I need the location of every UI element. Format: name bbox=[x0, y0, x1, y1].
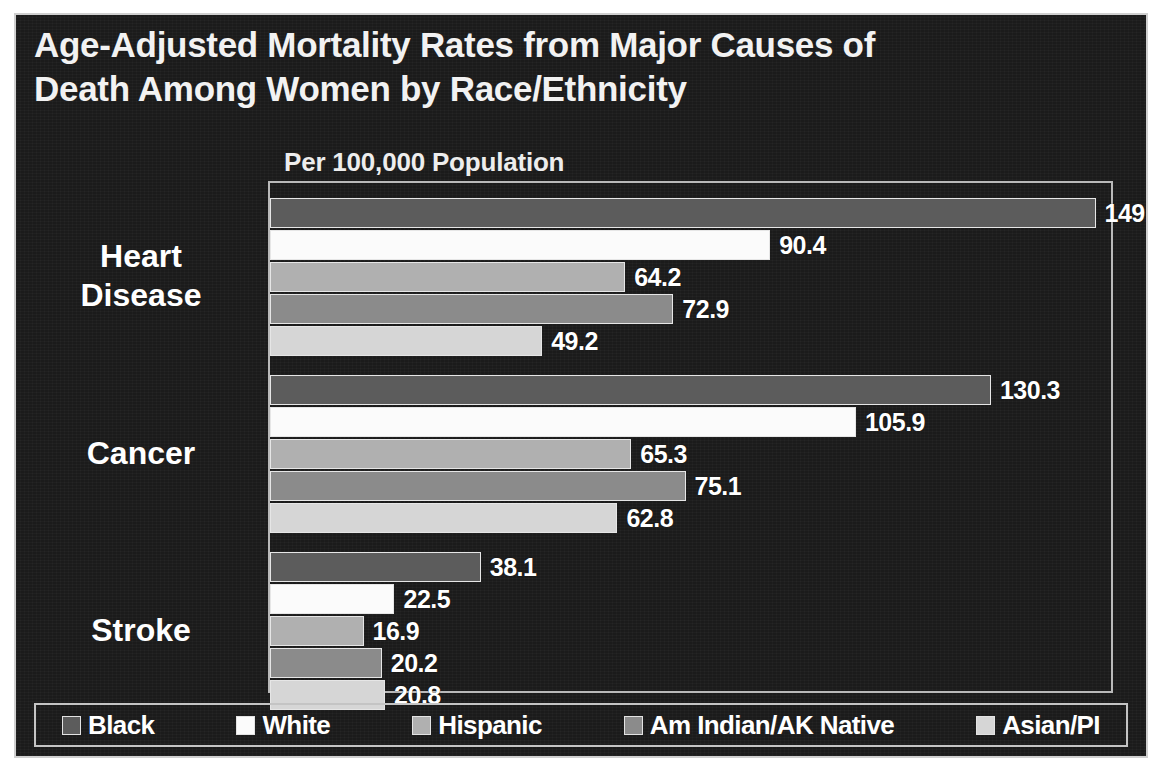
bar-row: 130.3 bbox=[270, 375, 1111, 405]
category-label-line: Stroke bbox=[22, 611, 260, 650]
bar[interactable] bbox=[270, 616, 364, 646]
bar-row: 16.9 bbox=[270, 616, 1111, 646]
bar-row: 64.2 bbox=[270, 262, 1111, 292]
chart-title-line-1: Age-Adjusted Mortality Rates from Major … bbox=[34, 23, 1124, 67]
category-label: HeartDisease bbox=[22, 237, 260, 315]
legend-item[interactable]: Black bbox=[62, 710, 154, 741]
bar-row: 75.1 bbox=[270, 471, 1111, 501]
legend-item[interactable]: Hispanic bbox=[412, 710, 542, 741]
plot-area: 149.290.464.272.949.2130.3105.965.375.16… bbox=[268, 181, 1113, 693]
bar-row: 22.5 bbox=[270, 584, 1111, 614]
bar[interactable] bbox=[270, 503, 617, 533]
bar-group: 130.3105.965.375.162.8 bbox=[270, 375, 1111, 535]
bar-value-label: 65.3 bbox=[640, 440, 687, 469]
category-label-line: Cancer bbox=[22, 434, 260, 473]
bar-group: 38.122.516.920.220.8 bbox=[270, 552, 1111, 712]
legend-label: Black bbox=[88, 710, 154, 741]
bar-value-label: 20.2 bbox=[391, 649, 438, 678]
legend-swatch-icon bbox=[62, 716, 81, 735]
bar-row: 90.4 bbox=[270, 230, 1111, 260]
legend-label: White bbox=[262, 710, 330, 741]
bar[interactable] bbox=[270, 439, 631, 469]
legend-label: Hispanic bbox=[438, 710, 542, 741]
bar-value-label: 16.9 bbox=[373, 617, 420, 646]
bars-container: 149.290.464.272.949.2130.3105.965.375.16… bbox=[270, 183, 1111, 691]
legend-label: Asian/PI bbox=[1002, 710, 1100, 741]
bar[interactable] bbox=[270, 584, 394, 614]
bar-row: 72.9 bbox=[270, 294, 1111, 324]
bar-row: 49.2 bbox=[270, 326, 1111, 356]
category-label-line: Heart bbox=[22, 237, 260, 276]
legend-swatch-icon bbox=[236, 716, 255, 735]
category-label-line: Disease bbox=[22, 276, 260, 315]
bar-value-label: 38.1 bbox=[490, 553, 537, 582]
chart-legend: BlackWhiteHispanicAm Indian/AK NativeAsi… bbox=[34, 703, 1128, 747]
bar[interactable] bbox=[270, 375, 991, 405]
bar-row: 149.2 bbox=[270, 198, 1111, 228]
bar-value-label: 90.4 bbox=[779, 231, 826, 260]
bar-value-label: 22.5 bbox=[403, 585, 450, 614]
legend-item[interactable]: White bbox=[236, 710, 330, 741]
legend-swatch-icon bbox=[624, 716, 643, 735]
bar-group: 149.290.464.272.949.2 bbox=[270, 198, 1111, 358]
legend-item[interactable]: Asian/PI bbox=[976, 710, 1100, 741]
bar-row: 65.3 bbox=[270, 439, 1111, 469]
bar-value-label: 49.2 bbox=[551, 327, 598, 356]
category-label: Stroke bbox=[22, 611, 260, 650]
bar-value-label: 64.2 bbox=[634, 263, 681, 292]
legend-label: Am Indian/AK Native bbox=[650, 710, 894, 741]
legend-swatch-icon bbox=[976, 716, 995, 735]
bar-row: 105.9 bbox=[270, 407, 1111, 437]
bar-value-label: 62.8 bbox=[626, 504, 673, 533]
bar-row: 20.2 bbox=[270, 648, 1111, 678]
bar[interactable] bbox=[270, 198, 1096, 228]
bar[interactable] bbox=[270, 326, 542, 356]
bar-value-label: 72.9 bbox=[682, 295, 729, 324]
bar-value-label: 75.1 bbox=[695, 472, 742, 501]
bar[interactable] bbox=[270, 471, 686, 501]
bar-row: 62.8 bbox=[270, 503, 1111, 533]
bar-row: 38.1 bbox=[270, 552, 1111, 582]
category-label: Cancer bbox=[22, 434, 260, 473]
legend-item[interactable]: Am Indian/AK Native bbox=[624, 710, 894, 741]
bar[interactable] bbox=[270, 407, 856, 437]
bar[interactable] bbox=[270, 648, 382, 678]
chart-title-line-2: Death Among Women by Race/Ethnicity bbox=[34, 67, 1124, 111]
bar-value-label: 130.3 bbox=[1000, 376, 1060, 405]
chart-title: Age-Adjusted Mortality Rates from Major … bbox=[34, 23, 1124, 111]
bar-value-label: 105.9 bbox=[865, 408, 925, 437]
chart-subtitle: Per 100,000 Population bbox=[284, 147, 564, 178]
bar[interactable] bbox=[270, 294, 673, 324]
bar-value-label: 149.2 bbox=[1105, 199, 1149, 228]
chart-figure: Age-Adjusted Mortality Rates from Major … bbox=[14, 13, 1148, 758]
bar[interactable] bbox=[270, 262, 625, 292]
bar[interactable] bbox=[270, 552, 481, 582]
bar[interactable] bbox=[270, 230, 770, 260]
legend-swatch-icon bbox=[412, 716, 431, 735]
